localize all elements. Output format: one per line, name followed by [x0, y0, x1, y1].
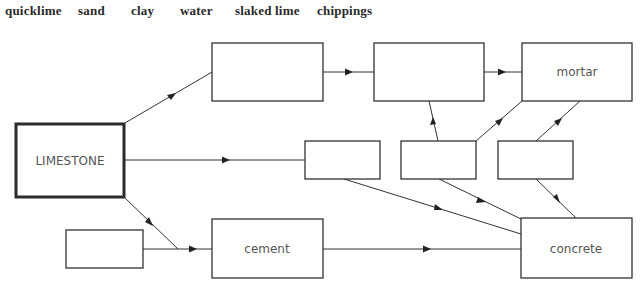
box-cement: cement: [212, 219, 323, 278]
box-top-a: [212, 43, 323, 101]
arrow-icon: [345, 69, 353, 76]
arrow-icon: [423, 246, 431, 253]
arrow-icon: [434, 204, 443, 210]
flow-diagram: LIMESTONE mortar cement concrete: [0, 0, 644, 293]
box-mid-d: [401, 141, 476, 179]
arrow-icon: [189, 246, 197, 253]
arrow-icon: [553, 194, 560, 203]
box-limestone-label: LIMESTONE: [35, 154, 104, 168]
arrow-icon: [498, 69, 506, 76]
arrow-icon: [554, 118, 562, 126]
box-concrete: concrete: [521, 218, 632, 278]
arrow-icon: [222, 157, 230, 164]
arrow-icon: [167, 93, 176, 100]
box-cement-label: cement: [244, 242, 290, 256]
box-limestone: LIMESTONE: [16, 124, 124, 197]
connector-limestone-to-top-a: [125, 72, 212, 123]
box-bottom-left: [66, 230, 143, 268]
arrow-icon: [495, 118, 503, 126]
box-mortar-label: mortar: [557, 65, 598, 79]
box-top-b: [374, 43, 484, 101]
box-mortar: mortar: [522, 43, 632, 101]
arrow-icon: [430, 117, 436, 125]
box-mid-e: [498, 141, 573, 179]
box-concrete-label: concrete: [550, 242, 602, 256]
box-mid-c: [305, 141, 380, 179]
